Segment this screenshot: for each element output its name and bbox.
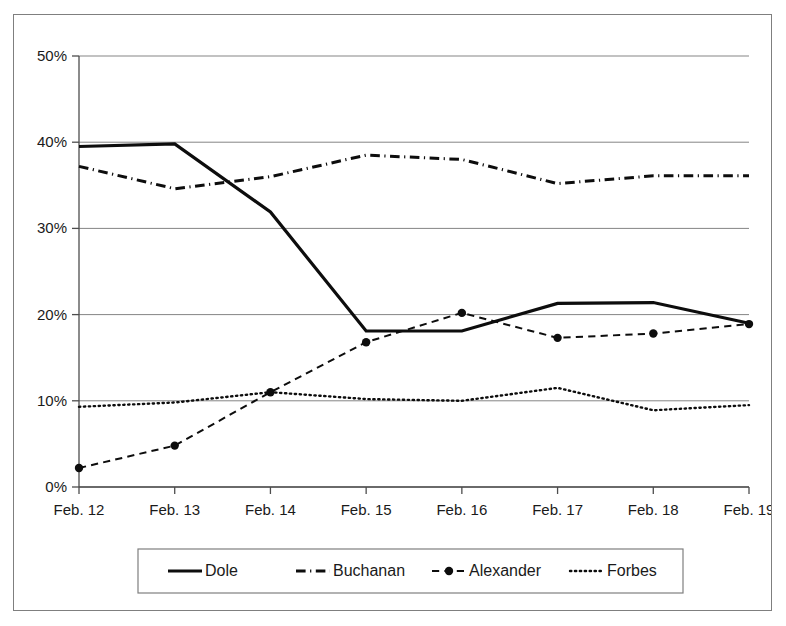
data-point-marker-alexander (553, 334, 561, 342)
x-axis-tick-label: Feb. 12 (54, 501, 105, 518)
data-point-marker-alexander (75, 464, 83, 472)
x-axis-tick-label: Feb. 18 (628, 501, 679, 518)
x-axis-labels-group: Feb. 12Feb. 13Feb. 14Feb. 15Feb. 16Feb. … (54, 501, 771, 518)
data-point-marker-alexander (362, 338, 370, 346)
y-axis-tick-label: 30% (37, 219, 67, 236)
y-axis-tick-label: 50% (37, 47, 67, 64)
x-axis-ticks-group (79, 487, 749, 494)
data-markers-group (75, 309, 753, 473)
x-axis-tick-label: Feb. 17 (532, 501, 583, 518)
x-axis-tick-label: Feb. 13 (149, 501, 200, 518)
legend-label-dole: Dole (205, 562, 238, 579)
legend-label-forbes: Forbes (607, 562, 657, 579)
series-line-alexander (79, 313, 749, 468)
y-axis-labels-group: 0%10%20%30%40%50% (37, 47, 67, 495)
data-point-marker-alexander (745, 320, 753, 328)
data-point-marker-alexander (458, 309, 466, 317)
y-axis-tick-label: 10% (37, 392, 67, 409)
legend-label-buchanan: Buchanan (333, 562, 405, 579)
data-point-marker-alexander (171, 441, 179, 449)
data-point-marker-alexander (649, 329, 657, 337)
series-line-dole (79, 144, 749, 331)
series-line-buchanan (79, 155, 749, 189)
x-axis-tick-label: Feb. 15 (341, 501, 392, 518)
data-point-marker-alexander (266, 388, 274, 396)
y-axis-tick-label: 40% (37, 133, 67, 150)
y-axis-tick-label: 20% (37, 306, 67, 323)
y-axis-tick-label: 0% (45, 478, 67, 495)
legend-marker-sample-alexander (445, 567, 453, 575)
y-axis-ticks-group (72, 56, 79, 487)
series-line-forbes (79, 388, 749, 410)
x-axis-tick-label: Feb. 14 (245, 501, 296, 518)
x-axis-tick-label: Feb. 16 (436, 501, 487, 518)
legend-label-alexander: Alexander (469, 562, 542, 579)
gridlines-group (79, 56, 749, 487)
chart-legend: DoleBuchananAlexanderForbes (138, 549, 683, 593)
x-axis-tick-label: Feb. 19 (724, 501, 771, 518)
chart-figure: 0%10%20%30%40%50% Feb. 12Feb. 13Feb. 14F… (13, 14, 772, 611)
line-chart: 0%10%20%30%40%50% Feb. 12Feb. 13Feb. 14F… (14, 15, 771, 610)
data-series-group (79, 144, 749, 468)
